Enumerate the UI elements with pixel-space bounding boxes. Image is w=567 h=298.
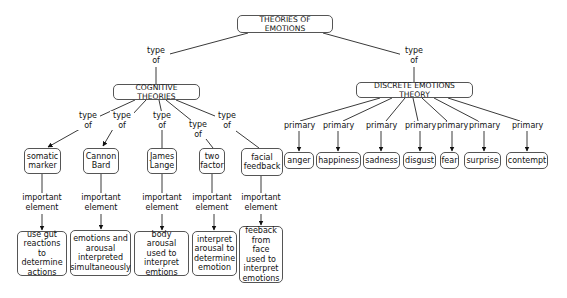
emotion-node-anger[interactable]: anger [284,152,314,169]
root-node[interactable]: THEORIES OF EMOTIONS [237,15,333,33]
link-label-important-element: important element [241,193,281,212]
link-label-important-element: important element [142,193,182,212]
link-label-type-of: type of [400,46,428,65]
link-label-primary: primary [284,121,314,131]
link-label-type-of: type of [76,111,100,130]
link-label-important-element: important element [22,193,62,212]
link-label-type-of: type of [142,46,170,65]
element-node-james-lange[interactable]: body arousal used to interpret emtions [134,231,189,276]
emotion-node-disgust[interactable]: disgust [403,152,436,169]
discrete-emotions-theory-node[interactable]: DISCRETE EMOTIONS THEORY [356,82,473,98]
element-node-somatic-marker[interactable]: use gut reactions to determine actions [17,231,67,276]
element-node-facial-feedback[interactable]: feeback from face used to interpret emot… [239,226,283,283]
emotion-node-sadness[interactable]: sadness [363,152,400,169]
element-node-two-factor[interactable]: interpret arousal to determine emotion [192,231,237,276]
link-label-important-element: important element [192,193,232,212]
link-label-primary: primary [323,121,353,131]
theory-node-two-factor[interactable]: two factor [199,148,225,174]
link-label-important-element: important element [81,193,121,212]
link-label-type-of: type of [150,111,174,130]
theory-node-somatic-marker[interactable]: somatic marker [24,148,61,174]
link-label-primary: primary [366,121,396,131]
link-label-type-of: type of [186,120,210,139]
concept-map: THEORIES OF EMOTIONS type of type of COG… [0,0,567,298]
link-label-primary: primary [405,121,435,131]
emotion-node-happiness[interactable]: happiness [316,152,361,169]
theory-node-cannon-bard[interactable]: Cannon Bard [83,148,119,174]
element-node-cannon-bard[interactable]: emotions and arousal interpreted simulta… [70,230,131,276]
link-label-primary: primary [437,121,467,131]
emotion-node-surprise[interactable]: surprise [464,152,501,169]
link-label-type-of: type of [110,111,134,130]
emotion-node-contempt[interactable]: contempt [506,152,548,169]
emotion-node-fear[interactable]: fear [440,152,459,169]
theory-node-james-lange[interactable]: James Lange [147,148,177,174]
link-label-primary: primary [512,121,542,131]
theory-node-facial-feedback[interactable]: facial feedback [241,148,283,176]
cognitive-theories-node[interactable]: COGNITIVE THEORIES [113,84,200,100]
link-label-primary: primary [469,121,499,131]
link-label-type-of: type of [215,111,239,130]
